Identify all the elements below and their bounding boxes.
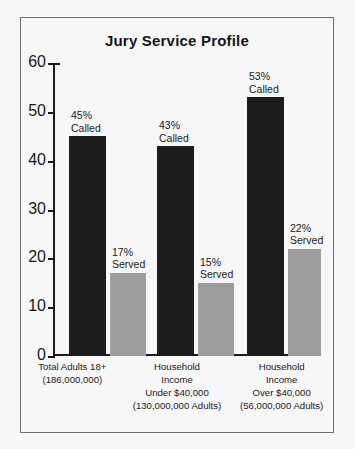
y-tick-label: 60 — [28, 52, 46, 72]
bar-status-word: Served — [112, 258, 145, 271]
y-tick-mark — [48, 258, 55, 260]
bar-percent: 43% — [159, 119, 189, 132]
bar-served-group-3[interactable] — [288, 249, 321, 356]
bar-percent: 17% — [112, 246, 145, 259]
plot-area: 6050403020100 45%Called17%Served43%Calle… — [53, 63, 321, 356]
x-category-line: Household — [230, 360, 333, 373]
x-category-line: Over $40,000 — [230, 386, 333, 399]
bar-percent: 53% — [249, 70, 279, 83]
y-tick-mark — [48, 356, 55, 358]
bar-value-label-served-group-1: 17%Served — [112, 246, 145, 271]
x-category-line — [21, 399, 124, 412]
x-category-line: Under $40,000 — [126, 386, 229, 399]
x-category-group-3: HouseholdIncomeOver $40,000(56,000,000 A… — [229, 360, 334, 438]
y-tick-label: 50 — [28, 101, 46, 121]
bar-value-label-called-group-2: 43%Called — [159, 119, 189, 144]
bar-percent: 22% — [290, 222, 323, 235]
bar-value-label-served-group-2: 15%Served — [200, 256, 233, 281]
bar-status-word: Called — [71, 122, 101, 135]
bar-called-group-2[interactable] — [157, 146, 194, 356]
bar-called-group-1[interactable] — [69, 136, 106, 356]
y-tick-label: 30 — [28, 199, 46, 219]
bar-percent: 45% — [71, 109, 101, 122]
x-category-line: (130,000,000 Adults) — [126, 399, 229, 412]
y-tick-mark — [48, 63, 55, 65]
x-category-group-2: HouseholdIncomeUnder $40,000(130,000,000… — [125, 360, 230, 438]
bar-value-label-called-group-1: 45%Called — [71, 109, 101, 134]
bar-percent: 15% — [200, 256, 233, 269]
bar-called-group-3[interactable] — [247, 97, 284, 356]
x-category-line: (56,000,000 Adults) — [230, 399, 333, 412]
bar-served-group-2[interactable] — [198, 283, 234, 356]
x-category-line: Income — [126, 373, 229, 386]
bar-served-group-1[interactable] — [110, 273, 146, 356]
x-category-group-1: Total Adults 18+(186,000,000) — [20, 360, 125, 438]
y-tick-mark — [48, 307, 55, 309]
y-tick-label: 20 — [28, 247, 46, 267]
x-category-line — [21, 386, 124, 399]
y-tick-mark — [48, 161, 55, 163]
chart-title: Jury Service Profile — [21, 32, 333, 49]
x-axis-category-labels: Total Adults 18+(186,000,000) HouseholdI… — [20, 360, 334, 438]
y-tick-label: 40 — [28, 150, 46, 170]
bar-status-word: Served — [200, 268, 233, 281]
bar-status-word: Called — [249, 83, 279, 96]
bar-status-word: Served — [290, 234, 323, 247]
y-tick-mark — [48, 112, 55, 114]
bar-value-label-served-group-3: 22%Served — [290, 222, 323, 247]
y-tick-mark — [48, 210, 55, 212]
bar-value-label-called-group-3: 53%Called — [249, 70, 279, 95]
y-tick-label: 10 — [28, 296, 46, 316]
x-category-line: Household — [126, 360, 229, 373]
x-category-line: Income — [230, 373, 333, 386]
bar-status-word: Called — [159, 132, 189, 145]
x-category-line: Total Adults 18+ — [21, 360, 124, 373]
x-category-line: (186,000,000) — [21, 373, 124, 386]
